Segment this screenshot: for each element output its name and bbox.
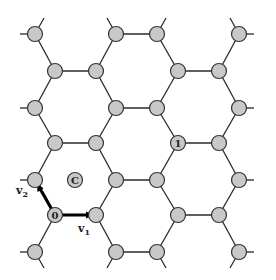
lattice-node bbox=[28, 27, 43, 42]
lattice-node bbox=[212, 208, 227, 223]
lattice-node bbox=[232, 245, 247, 260]
lattice-node bbox=[150, 173, 165, 188]
lattice-node bbox=[109, 101, 124, 116]
lattice-node bbox=[48, 136, 63, 151]
lattice-node bbox=[232, 173, 247, 188]
v2-label: v2 bbox=[15, 184, 28, 199]
lattice-node bbox=[89, 64, 104, 79]
lattice-node bbox=[150, 27, 165, 42]
basis-vectors bbox=[37, 183, 94, 219]
lattice-node bbox=[89, 136, 104, 151]
origin-label: 0 bbox=[52, 210, 59, 221]
lattice-node bbox=[109, 173, 124, 188]
honeycomb-lattice-diagram: C 0 1 v1 v2 bbox=[0, 0, 276, 280]
lattice-node bbox=[28, 101, 43, 116]
lattice-node bbox=[171, 208, 186, 223]
lattice-nodes bbox=[28, 27, 247, 260]
v1-label: v1 bbox=[77, 222, 90, 237]
center-label: C bbox=[71, 175, 79, 186]
lattice-node bbox=[28, 245, 43, 260]
lattice-node bbox=[212, 64, 227, 79]
lattice-node bbox=[48, 64, 63, 79]
site-one-label: 1 bbox=[175, 138, 182, 149]
lattice-node bbox=[150, 101, 165, 116]
lattice-node bbox=[232, 101, 247, 116]
lattice-node bbox=[150, 245, 165, 260]
lattice-node bbox=[212, 136, 227, 151]
lattice-node bbox=[232, 27, 247, 42]
lattice-node bbox=[109, 27, 124, 42]
lattice-node bbox=[28, 173, 43, 188]
lattice-node bbox=[89, 208, 104, 223]
lattice-node bbox=[171, 64, 186, 79]
lattice-node bbox=[109, 245, 124, 260]
